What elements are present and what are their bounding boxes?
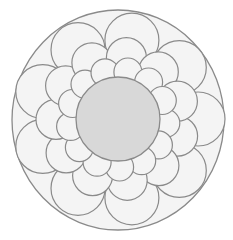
center-disc bbox=[76, 77, 160, 161]
mandala-drawing bbox=[0, 0, 233, 240]
flower-mandala-image bbox=[0, 0, 233, 240]
